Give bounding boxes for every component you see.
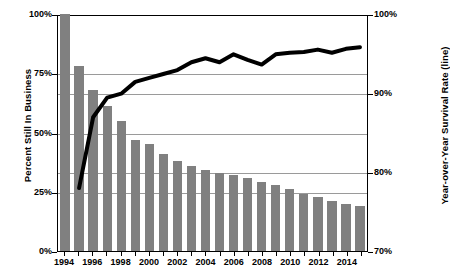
bar (201, 170, 210, 251)
bar-slot (297, 15, 311, 251)
x-tick-mark (319, 252, 320, 256)
bar (313, 197, 322, 252)
x-tick-mark (92, 252, 93, 256)
y-tick-mark-right (368, 94, 373, 95)
bar (285, 189, 294, 251)
bar-slot (128, 15, 142, 251)
x-tick-mark (248, 252, 249, 256)
x-tick-mark (347, 252, 348, 256)
y-tick-label-left: 25% (0, 187, 52, 197)
x-tick-mark (276, 252, 277, 256)
y-tick-mark-right (368, 252, 373, 253)
y-tick-label-right: 100% (374, 9, 434, 19)
y-tick-mark-right (368, 15, 373, 16)
x-tick-slot: 2012 (312, 252, 326, 278)
bar-series (58, 15, 367, 251)
bar-slot (170, 15, 184, 251)
x-tick-mark (290, 252, 291, 256)
bar (229, 175, 238, 251)
x-tick-mark (262, 252, 263, 256)
y-tick-mark-left (52, 193, 57, 194)
bar-slot (72, 15, 86, 251)
y-tick-label-left: 50% (0, 128, 52, 138)
y-tick-mark-left (52, 74, 57, 75)
x-tick-slot: 2010 (283, 252, 297, 278)
x-tick-slot: 2006 (227, 252, 241, 278)
bar-slot (213, 15, 227, 251)
x-tick-mark (205, 252, 206, 256)
x-tick-slot: 2000 (142, 252, 156, 278)
bar-slot (114, 15, 128, 251)
bar (355, 206, 364, 251)
x-tick-mark (163, 252, 164, 256)
x-tick-mark (78, 252, 79, 256)
x-tick-mark (121, 252, 122, 256)
bar (187, 166, 196, 251)
bar (103, 106, 112, 251)
bar (173, 161, 182, 251)
x-tick-slot: 2002 (170, 252, 184, 278)
y-tick-mark-left (52, 252, 57, 253)
bar (88, 90, 97, 251)
bar-slot (339, 15, 353, 251)
plot-area (57, 15, 368, 252)
right-axis-title: Year-over-Year Survival Rate (line) (439, 16, 450, 236)
bar (117, 121, 126, 251)
x-axis: 1994199619982000200220042006200820102012… (57, 252, 368, 278)
bar-slot (325, 15, 339, 251)
x-tick-mark (234, 252, 235, 256)
x-tick-slot (354, 252, 368, 278)
bar (299, 194, 308, 251)
bar-slot (198, 15, 212, 251)
x-tick-mark (177, 252, 178, 256)
bar (215, 173, 224, 251)
x-tick-mark (333, 252, 334, 256)
bar-slot (58, 15, 72, 251)
x-tick-mark (149, 252, 150, 256)
bar (327, 201, 336, 251)
bar-slot (311, 15, 325, 251)
bar (131, 140, 140, 251)
bar (60, 14, 69, 251)
x-tick-slot: 2004 (198, 252, 212, 278)
y-tick-label-right: 90% (374, 88, 434, 98)
bar (257, 182, 266, 251)
bar-slot (227, 15, 241, 251)
bar-slot (100, 15, 114, 251)
y-tick-mark-right (368, 173, 373, 174)
bar-slot (142, 15, 156, 251)
bar-slot (283, 15, 297, 251)
x-tick-slot: 1994 (57, 252, 71, 278)
y-tick-label-right: 80% (374, 167, 434, 177)
x-tick-slot: 2014 (340, 252, 354, 278)
y-tick-mark-left (52, 15, 57, 16)
y-tick-label-left: 100% (0, 9, 52, 19)
y-tick-label-left: 75% (0, 68, 52, 78)
x-tick-mark (220, 252, 221, 256)
bar-slot (269, 15, 283, 251)
bar (145, 144, 154, 251)
bar-slot (156, 15, 170, 251)
bar (271, 185, 280, 251)
y-tick-label-right: 70% (374, 246, 434, 256)
bar-slot (241, 15, 255, 251)
bar (243, 178, 252, 251)
bar-slot (255, 15, 269, 251)
x-tick-mark (135, 252, 136, 256)
y-tick-mark-left (52, 134, 57, 135)
bar-slot (353, 15, 367, 251)
x-tick-slot: 1998 (114, 252, 128, 278)
bar (74, 66, 83, 251)
bar-slot (86, 15, 100, 251)
bar (341, 204, 350, 251)
x-tick-mark (64, 252, 65, 256)
x-tick-mark (304, 252, 305, 256)
x-tick-slot: 1996 (85, 252, 99, 278)
x-tick-mark (361, 252, 362, 256)
x-tick-mark (106, 252, 107, 256)
x-tick-mark (191, 252, 192, 256)
y-tick-label-left: 0% (0, 246, 52, 256)
bar (159, 154, 168, 251)
bar-slot (184, 15, 198, 251)
